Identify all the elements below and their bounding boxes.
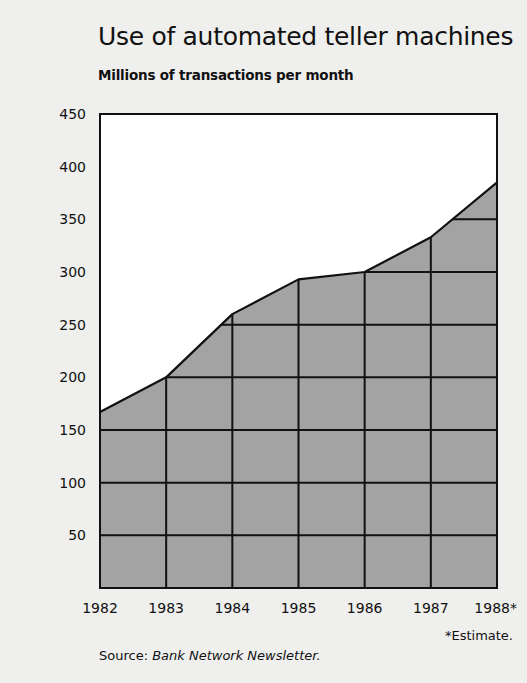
x-tick-label: 1984 (215, 600, 251, 616)
y-tick-label: 200 (59, 369, 86, 385)
x-tick-label: 1986 (347, 600, 383, 616)
x-tick-label: 1983 (148, 600, 184, 616)
x-tick-label: 1988* (474, 600, 517, 616)
y-tick-label: 300 (59, 264, 86, 280)
source-name: Bank Network Newsletter. (152, 648, 320, 663)
y-tick-label: 450 (59, 106, 86, 122)
source-prefix: Source: (99, 648, 148, 663)
source-note: Source: Bank Network Newsletter. (99, 648, 321, 663)
y-tick-label: 250 (59, 317, 86, 333)
area-chart: 5010015020025030035040045019821983198419… (0, 0, 527, 683)
y-tick-label: 150 (59, 422, 86, 438)
x-tick-label: 1985 (281, 600, 317, 616)
estimate-footnote: *Estimate. (445, 628, 513, 643)
x-tick-label: 1987 (413, 600, 449, 616)
y-tick-label: 50 (68, 527, 86, 543)
x-tick-label: 1982 (82, 600, 118, 616)
y-tick-label: 350 (59, 211, 86, 227)
y-tick-label: 100 (59, 475, 86, 491)
y-tick-label: 400 (59, 159, 86, 175)
